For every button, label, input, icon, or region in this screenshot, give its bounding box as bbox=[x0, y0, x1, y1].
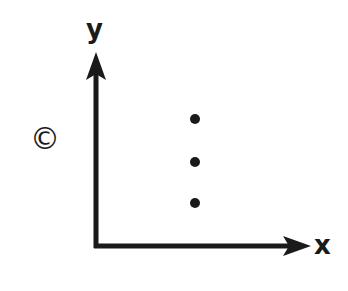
data-point bbox=[190, 157, 200, 167]
x-axis-label: x bbox=[314, 232, 331, 258]
panel-label: © bbox=[30, 124, 60, 154]
y-axis bbox=[86, 52, 106, 248]
data-point bbox=[190, 114, 200, 124]
data-point bbox=[190, 198, 200, 208]
data-points bbox=[190, 114, 200, 208]
y-axis-label: y bbox=[86, 16, 103, 42]
x-axis bbox=[94, 236, 311, 256]
